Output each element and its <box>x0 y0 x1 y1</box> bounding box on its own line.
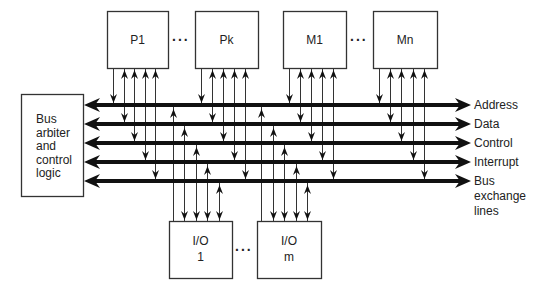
arbiter-label: Bus arbiter and control logic <box>36 113 82 181</box>
bus-label-address: Address <box>474 98 518 113</box>
arbiter-label-line5: logic <box>36 167 82 181</box>
arbiter-label-line4: control <box>36 154 82 168</box>
arbiter-label-line3: and <box>36 140 82 154</box>
processor-p1-label: P1 <box>107 32 168 48</box>
memory-mn-label: Mn <box>373 32 437 48</box>
io-ellipsis: ... <box>235 238 253 254</box>
processor-pk-label: Pk <box>195 32 258 48</box>
memory-m1-label: M1 <box>283 32 346 48</box>
io-1-label-line2: 1 <box>169 249 232 265</box>
io-m-label: I/O m <box>257 233 321 265</box>
io-m-label-line2: m <box>257 249 321 265</box>
arbiter-label-line1: Bus <box>36 113 82 127</box>
bus-label-bus-exchange-line1: Bus <box>474 174 526 189</box>
bus-label-control: Control <box>474 136 513 151</box>
bus-lines <box>84 98 471 188</box>
bus-label-interrupt: Interrupt <box>474 155 519 170</box>
io-1-label-line1: I/O <box>169 233 232 249</box>
bus-label-data: Data <box>474 117 499 132</box>
io-m-label-line1: I/O <box>257 233 321 249</box>
memory-ellipsis: ... <box>350 28 368 44</box>
processor-ellipsis: ... <box>172 28 190 44</box>
io-1-label: I/O 1 <box>169 233 232 265</box>
bus-label-bus-exchange: Bus exchange lines <box>474 174 526 219</box>
bus-label-bus-exchange-line3: lines <box>474 204 526 219</box>
arbiter-label-line2: arbiter <box>36 127 82 141</box>
bus-label-bus-exchange-line2: exchange <box>474 189 526 204</box>
